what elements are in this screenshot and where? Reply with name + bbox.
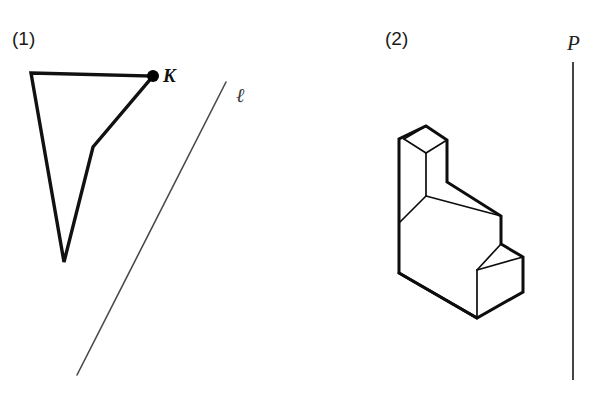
panel-2-group: (2) P: [385, 28, 580, 380]
panel-1-group: (1) K ℓ: [12, 28, 245, 375]
line-p-label: P: [566, 31, 580, 55]
point-k-label: K: [162, 65, 177, 86]
dart-quadrilateral-shape: [31, 73, 153, 262]
line-l-label: ℓ: [236, 84, 245, 106]
line-l: [77, 82, 226, 375]
geometry-figure: (1) K ℓ (2): [0, 0, 600, 415]
panel-2-label: (2): [385, 28, 408, 49]
point-k-dot: [147, 70, 159, 82]
stepped-block-outline: [399, 126, 523, 318]
figure-canvas: (1) K ℓ (2): [0, 0, 600, 415]
panel-1-label: (1): [12, 28, 35, 49]
